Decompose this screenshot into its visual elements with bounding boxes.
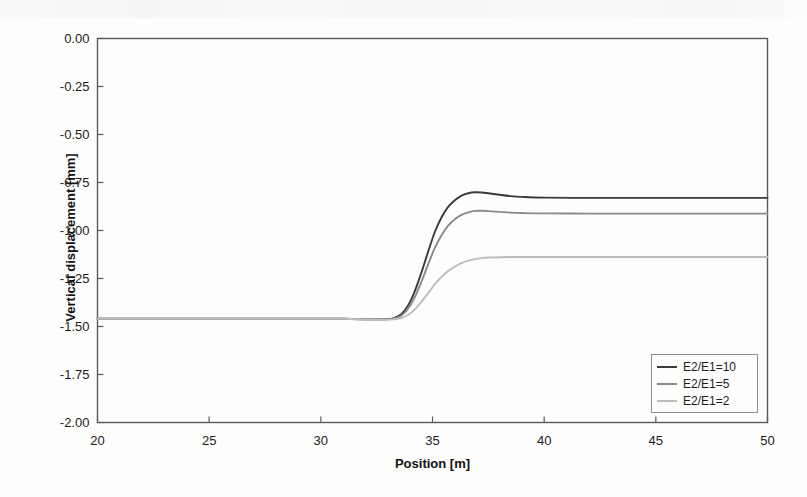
legend-label: E2/E1=2 <box>683 394 729 408</box>
x-tick-label: 30 <box>301 433 341 448</box>
plot-canvas <box>0 0 807 497</box>
legend-label: E2/E1=5 <box>683 377 729 391</box>
x-tick-label: 45 <box>636 433 676 448</box>
series-lines <box>98 192 768 319</box>
legend-item: E2/E1=10 <box>652 358 757 375</box>
y-tick-label: 0.00 <box>38 31 90 46</box>
y-tick-label: -1.75 <box>38 367 90 382</box>
y-tick-label: -2.00 <box>38 415 90 430</box>
y-axis-title: Vertical displacement [mm] <box>63 108 78 368</box>
legend-swatch-icon <box>657 400 677 402</box>
legend-item: E2/E1=5 <box>652 375 757 392</box>
x-tick-label: 35 <box>413 433 453 448</box>
x-tick-label: 25 <box>189 433 229 448</box>
x-tick-label: 50 <box>748 433 788 448</box>
series-line <box>98 257 768 320</box>
series-line <box>98 211 768 320</box>
y-tick-label: -0.25 <box>38 79 90 94</box>
x-tick-label: 20 <box>78 433 118 448</box>
legend-swatch-icon <box>657 383 677 385</box>
chart-legend: E2/E1=10 E2/E1=5 E2/E1=2 <box>651 354 758 413</box>
legend-swatch-icon <box>657 366 677 368</box>
chart-figure: 0.00-0.25-0.50-0.75-1.00-1.25-1.50-1.75-… <box>0 0 807 497</box>
x-tick-label: 40 <box>524 433 564 448</box>
x-axis-title: Position [m] <box>97 456 768 471</box>
legend-label: E2/E1=10 <box>683 360 736 374</box>
legend-item: E2/E1=2 <box>652 392 757 409</box>
